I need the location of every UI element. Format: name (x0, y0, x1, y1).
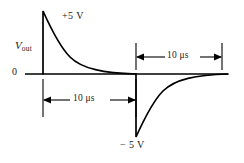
negative-pulse-trace (136, 74, 228, 137)
waveform-figure: Vout 0 +5 V − 5 V 10 μs 10 μs (0, 0, 244, 163)
y-axis-label: Vout (15, 40, 32, 53)
dimension-lower-label: 10 μs (73, 94, 95, 104)
dimension-lower-arrow-right (128, 97, 136, 104)
positive-pulse-trace (43, 11, 136, 74)
negative-peak-label: − 5 V (120, 140, 145, 150)
positive-peak-label: +5 V (62, 11, 84, 21)
dimension-lower-arrow-left (43, 97, 51, 104)
y-axis-label-subscript: out (22, 44, 32, 53)
zero-tick-label: 0 (12, 67, 17, 77)
dimension-upper-label: 10 μs (167, 51, 189, 61)
dimension-upper-arrow-right (214, 54, 222, 61)
dimension-upper-arrow-left (136, 54, 144, 61)
y-axis-label-symbol: V (15, 39, 22, 51)
